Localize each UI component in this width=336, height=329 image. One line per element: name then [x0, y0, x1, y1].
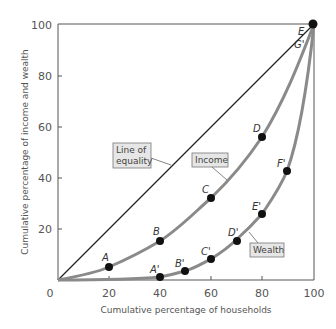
svg-text:C': C' — [201, 246, 211, 257]
label-income: Income — [192, 153, 229, 167]
x-tick-0: 0 — [47, 287, 54, 300]
y-tick-20: 20 — [38, 223, 52, 236]
svg-text:Line of: Line of — [116, 145, 147, 155]
label-line-of-equality: Line of equality — [113, 143, 153, 168]
svg-text:E': E' — [252, 201, 261, 212]
svg-text:A: A — [101, 252, 109, 263]
svg-text:C: C — [202, 184, 209, 195]
svg-text:F': F' — [277, 158, 286, 169]
svg-text:B': B' — [175, 258, 185, 269]
svg-text:equality: equality — [116, 156, 153, 166]
y-tick-100: 100 — [31, 19, 52, 32]
y-tick-40: 40 — [38, 172, 52, 185]
x-tick-20: 20 — [102, 287, 116, 300]
y-tick-80: 80 — [38, 70, 52, 83]
point-A — [105, 263, 113, 271]
income-leader — [212, 167, 227, 180]
equality-leader — [151, 158, 171, 165]
svg-text:E: E — [298, 26, 305, 37]
svg-text:Income: Income — [195, 155, 229, 165]
point-D — [258, 133, 266, 141]
svg-text:G': G' — [294, 39, 305, 50]
line-of-equality — [58, 24, 314, 280]
x-tick-60: 60 — [204, 287, 218, 300]
svg-text:A': A' — [149, 264, 160, 275]
x-tick-100: 100 — [304, 287, 325, 300]
lorenz-chart: 100 80 60 40 20 0 20 40 60 80 100 Cumula… — [0, 0, 336, 329]
x-tick-labels: 0 20 40 60 80 100 — [47, 287, 325, 300]
y-tick-labels: 100 80 60 40 20 — [31, 19, 52, 236]
svg-text:D: D — [253, 123, 261, 134]
wealth-leader — [249, 232, 258, 243]
x-tick-80: 80 — [255, 287, 269, 300]
point-C — [207, 194, 215, 202]
point-D-prime — [233, 237, 241, 245]
x-axis-title: Cumulative percentage of households — [100, 305, 271, 315]
y-axis-title: Cumulative percentage of income and weal… — [20, 49, 30, 255]
point-E — [309, 20, 318, 29]
svg-text:B: B — [153, 226, 160, 237]
point-B — [156, 237, 164, 245]
label-wealth: Wealth — [250, 243, 284, 257]
svg-text:D': D' — [228, 227, 238, 238]
x-tick-40: 40 — [153, 287, 167, 300]
svg-text:Wealth: Wealth — [253, 245, 284, 255]
y-tick-60: 60 — [38, 121, 52, 134]
